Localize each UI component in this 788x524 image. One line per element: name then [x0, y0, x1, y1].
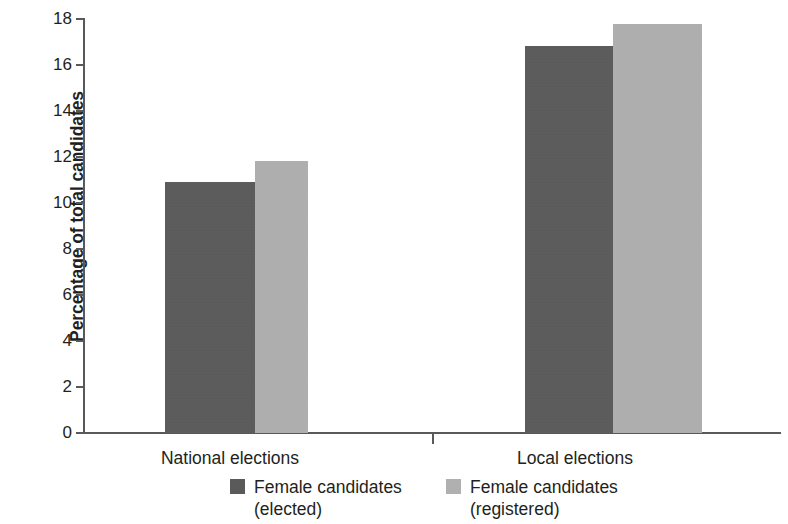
- legend-label-elected-line1: Female candidates: [254, 477, 402, 497]
- bar-chart: Percentage of total candidates 18 16 14 …: [0, 0, 788, 524]
- x-axis-label-local-elections: Local elections: [485, 447, 665, 469]
- bar-national-elected: [165, 182, 255, 433]
- legend-swatch-icon-elected: [230, 479, 245, 494]
- legend-label-registered-line2: (registered): [470, 498, 618, 520]
- legend-item-elected[interactable]: Female candidates (elected): [230, 476, 402, 520]
- y-tick-label-18: 18: [16, 10, 72, 27]
- y-tick-label-2: 2: [16, 378, 72, 395]
- legend-swatch-icon-registered: [446, 479, 461, 494]
- legend-label-registered-line1: Female candidates: [470, 477, 618, 497]
- legend-label-elected-line2: (elected): [254, 498, 402, 520]
- legend-label-registered: Female candidates (registered): [470, 476, 618, 520]
- bar-local-registered: [613, 24, 702, 433]
- y-tick-label-14: 14: [16, 102, 72, 119]
- y-tick-label-8: 8: [16, 240, 72, 257]
- y-tick-label-4: 4: [16, 332, 72, 349]
- y-tick-label-12: 12: [16, 148, 72, 165]
- y-tick-label-6: 6: [16, 286, 72, 303]
- plot-area: [83, 18, 781, 433]
- y-tick-label-10: 10: [16, 194, 72, 211]
- chart-legend: Female candidates (elected) Female candi…: [0, 476, 788, 524]
- legend-item-registered[interactable]: Female candidates (registered): [446, 476, 618, 520]
- legend-label-elected: Female candidates (elected): [254, 476, 402, 520]
- bar-local-elected: [525, 46, 613, 433]
- bar-national-registered: [255, 161, 308, 433]
- y-tick-label-16: 16: [16, 56, 72, 73]
- x-axis-category-separator: [432, 434, 434, 444]
- x-axis-label-national-elections: National elections: [140, 447, 320, 469]
- y-tick-label-0: 0: [16, 424, 72, 441]
